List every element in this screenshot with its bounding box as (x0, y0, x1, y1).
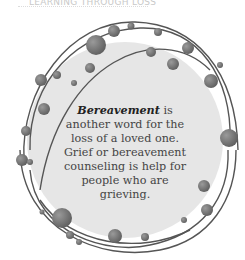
callout-text: is another word for the loss of a loved … (64, 104, 186, 201)
bereavement-callout: Bereavement is another word for the loss… (55, 103, 195, 202)
callout-term: Bereavement (77, 103, 160, 117)
